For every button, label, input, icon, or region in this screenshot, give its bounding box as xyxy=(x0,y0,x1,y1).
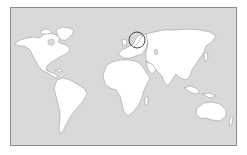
africa xyxy=(103,60,150,116)
southeast-asia-islands xyxy=(184,86,200,94)
south-america xyxy=(54,78,87,134)
caribbean xyxy=(55,69,63,72)
new-zealand xyxy=(229,116,233,126)
australia xyxy=(196,102,226,121)
british-isles xyxy=(122,39,127,46)
world-map xyxy=(0,0,247,155)
madagascar xyxy=(145,96,148,106)
arctic-islands xyxy=(40,29,52,34)
japan xyxy=(204,52,208,62)
new-guinea xyxy=(202,93,216,98)
